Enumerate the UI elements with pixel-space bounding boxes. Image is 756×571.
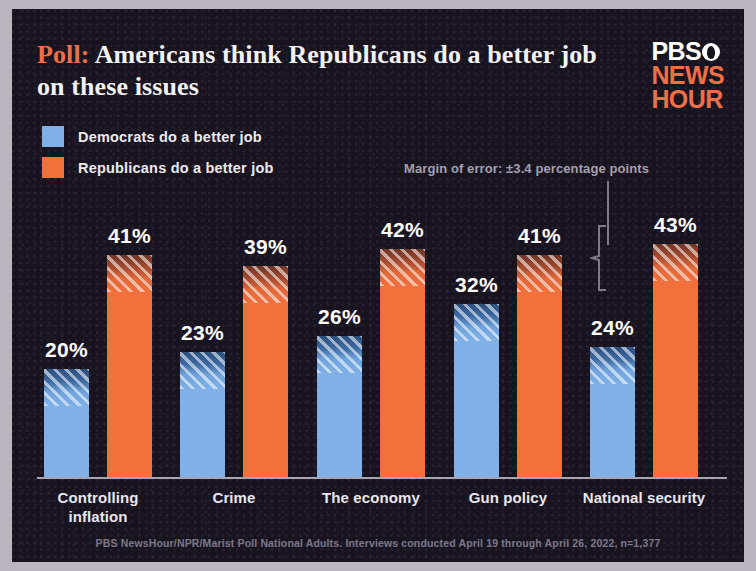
pbs-newshour-logo: PBS NEWS HOUR — [651, 39, 724, 111]
chart-panel: Poll: Americans think Republicans do a b… — [12, 9, 744, 562]
bar-value-label: 23% — [181, 321, 224, 345]
bar-value-label: 26% — [318, 305, 361, 329]
bar-error-band — [517, 255, 562, 292]
bar-error-band — [243, 266, 288, 303]
image-frame: Poll: Americans think Republicans do a b… — [0, 0, 756, 571]
bar-republicans: 39% — [243, 266, 288, 477]
bar-democrats: 20% — [44, 369, 89, 477]
source-note: PBS NewsHour/NPR/Marist Poll National Ad… — [12, 537, 744, 549]
bar-value-label: 42% — [381, 218, 424, 242]
bar-error-band — [180, 352, 225, 389]
bar-error-band — [107, 255, 152, 292]
bar-democrats: 23% — [180, 352, 225, 477]
bar-error-band — [44, 369, 89, 406]
logo-hour-text: HOUR — [651, 87, 724, 111]
legend-swatch-republicans — [42, 157, 64, 178]
bar-republicans: 41% — [517, 255, 562, 477]
logo-pbs-text: PBS — [651, 39, 701, 63]
bar-value-label: 41% — [518, 224, 561, 248]
bar-value-label: 43% — [654, 213, 697, 237]
legend-item-democrats: Democrats do a better job — [42, 126, 274, 147]
legend-item-republicans: Republicans do a better job — [42, 157, 274, 178]
bar-value-label: 39% — [244, 235, 287, 259]
bar-error-band — [590, 347, 635, 384]
bar-republicans: 43% — [653, 244, 698, 477]
legend-label-republicans: Republicans do a better job — [78, 160, 274, 176]
bar-value-label: 24% — [591, 316, 634, 340]
pbs-head-icon — [702, 43, 720, 61]
bar-democrats: 24% — [590, 347, 635, 477]
bar-error-band — [317, 336, 362, 373]
logo-line-pbs: PBS — [651, 39, 724, 63]
legend-swatch-democrats — [42, 126, 64, 147]
bar-democrats: 26% — [317, 336, 362, 477]
bar-democrats: 32% — [454, 304, 499, 477]
bar-republicans: 41% — [107, 255, 152, 477]
legend: Democrats do a better job Republicans do… — [42, 126, 274, 188]
bar-republicans: 42% — [380, 249, 425, 477]
margin-of-error-note: Margin of error: ±3.4 percentage points — [404, 161, 649, 176]
bar-value-label: 41% — [108, 224, 151, 248]
category-label: National security — [578, 489, 710, 508]
category-label: The economy — [305, 489, 437, 508]
category-label: Gun policy — [442, 489, 574, 508]
logo-news-text: NEWS — [651, 63, 724, 87]
bar-value-label: 20% — [45, 338, 88, 362]
page-title: Poll: Americans think Republicans do a b… — [37, 39, 597, 102]
bar-error-band — [653, 244, 698, 281]
axis-baseline — [37, 477, 727, 479]
title-text: Americans think Republicans do a better … — [37, 40, 597, 101]
legend-label-democrats: Democrats do a better job — [78, 129, 262, 145]
category-label: Crime — [168, 489, 300, 508]
category-label: Controlling inflation — [32, 489, 164, 527]
title-kicker: Poll: — [37, 40, 90, 69]
bar-error-band — [454, 304, 499, 341]
bar-value-label: 32% — [455, 273, 498, 297]
bar-error-band — [380, 249, 425, 286]
